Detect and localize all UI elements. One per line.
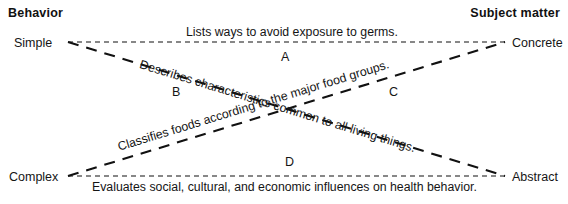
item-text-a: Lists ways to avoid exposure to germs.: [186, 25, 398, 39]
axis-label-concrete: Concrete: [512, 36, 563, 50]
axis-label-abstract: Abstract: [512, 170, 558, 184]
axis-label-simple: Simple: [14, 36, 52, 50]
axis-label-complex: Complex: [9, 170, 58, 184]
item-marker-d: D: [285, 155, 294, 169]
taxonomy-matrix-figure: Behavior Subject matter Simple Complex C…: [0, 0, 568, 204]
item-marker-a: A: [281, 50, 289, 64]
item-text-d: Evaluates social, cultural, and economic…: [92, 180, 477, 194]
header-subject-matter: Subject matter: [470, 6, 560, 20]
item-marker-b: B: [172, 85, 180, 99]
item-marker-c: C: [389, 85, 398, 99]
header-behavior: Behavior: [8, 6, 63, 20]
